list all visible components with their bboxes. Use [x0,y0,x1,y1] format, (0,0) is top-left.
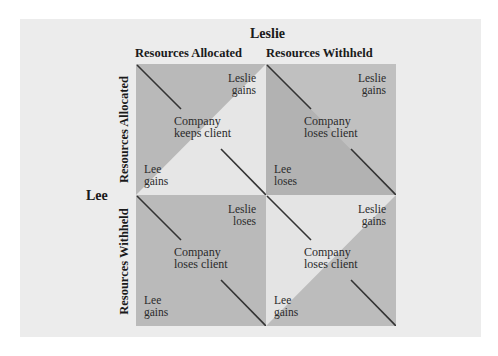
cell-withheld-allocated: Leslieloses Companyloses client Leegains [136,195,266,326]
lee-payoff: Leeloses [274,163,297,187]
column-player-label: Leslie [250,26,285,42]
leslie-payoff: Leslieloses [228,203,256,227]
lee-payoff: Leegains [144,163,168,187]
cell-withheld-withheld: Lesliegains Companyloses client Leegains [266,195,396,326]
payoff-matrix: Lesliegains Companykeeps client Leegains… [136,64,396,326]
company-outcome: Companykeeps client [174,115,231,139]
cell-allocated-allocated: Lesliegains Companykeeps client Leegains [136,64,266,195]
column-strategy-withheld: Resources Withheld [266,46,373,61]
lee-payoff: Leegains [274,294,298,318]
leslie-payoff: Lesliegains [358,72,386,96]
company-outcome: Companyloses client [174,246,228,270]
lee-payoff: Leegains [144,294,168,318]
row-strategy-allocated: Resources Allocated [117,65,132,195]
leslie-payoff: Lesliegains [228,72,256,96]
leslie-payoff: Lesliegains [358,203,386,227]
company-outcome: Companyloses client [304,246,358,270]
cell-allocated-withheld: Lesliegains Companyloses client Leeloses [266,64,396,195]
row-player-label: Lee [86,188,108,204]
row-strategy-withheld: Resources Withheld [117,197,132,327]
column-strategy-allocated: Resources Allocated [135,46,242,61]
company-outcome: Companyloses client [304,115,358,139]
